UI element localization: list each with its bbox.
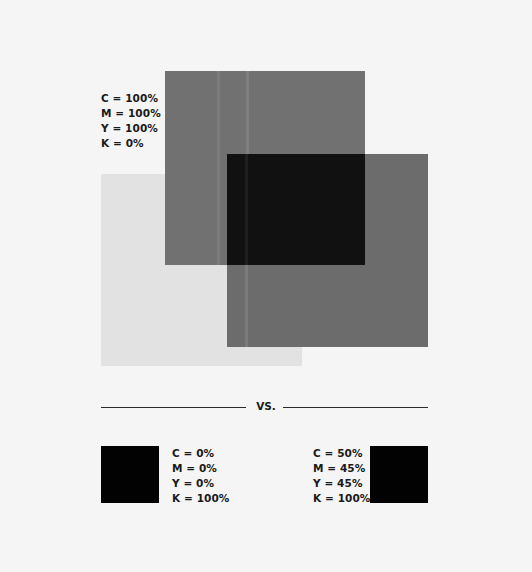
divider-line-right bbox=[283, 407, 428, 408]
magenta-value: M = 45% bbox=[313, 461, 370, 476]
rich-black-swatch bbox=[370, 446, 428, 503]
yellow-value: Y = 100% bbox=[101, 121, 161, 136]
cyan-value: C = 100% bbox=[101, 91, 161, 106]
cyan-value: C = 50% bbox=[313, 446, 370, 461]
vs-label: VS. bbox=[255, 400, 277, 412]
black-value: K = 0% bbox=[101, 136, 161, 151]
divider-line-left bbox=[101, 407, 246, 408]
pure-black-swatch bbox=[101, 446, 159, 503]
cmyk-label-rich-black: C = 50% M = 45% Y = 45% K = 100% bbox=[313, 446, 370, 506]
overlap-dark-region bbox=[227, 154, 365, 265]
cmyk-label-pure-black: C = 0% M = 0% Y = 0% K = 100% bbox=[172, 446, 229, 506]
cyan-value: C = 0% bbox=[172, 446, 229, 461]
magenta-value: M = 0% bbox=[172, 461, 229, 476]
black-value: K = 100% bbox=[313, 491, 370, 506]
yellow-value: Y = 45% bbox=[313, 476, 370, 491]
black-value: K = 100% bbox=[172, 491, 229, 506]
cmyk-diagram: C = 100% M = 100% Y = 100% K = 0% VS. C … bbox=[0, 0, 532, 572]
magenta-value: M = 100% bbox=[101, 106, 161, 121]
yellow-value: Y = 0% bbox=[172, 476, 229, 491]
cmyk-label-rich-overlap: C = 100% M = 100% Y = 100% K = 0% bbox=[101, 91, 161, 151]
